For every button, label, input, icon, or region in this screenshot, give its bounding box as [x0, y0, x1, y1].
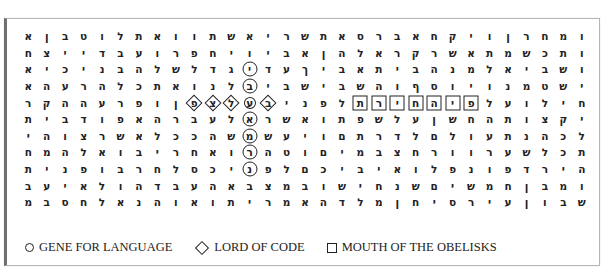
- grid-letter: מ: [480, 177, 498, 194]
- grid-letter: ר: [462, 194, 480, 211]
- grid-letter: א: [204, 144, 222, 161]
- grid-letter: כ: [536, 45, 554, 62]
- grid-letter: צ: [388, 144, 406, 161]
- grid-letter: ב: [111, 45, 129, 62]
- grid-letter: ב: [56, 28, 74, 45]
- grid-letter: י: [573, 111, 591, 128]
- grid-letter: ש: [462, 177, 480, 194]
- grid-letter: ל: [167, 161, 185, 178]
- grid-letter: ק: [554, 111, 572, 128]
- grid-letter: ש: [167, 61, 185, 78]
- gene-for-language-letter: ע: [240, 94, 258, 111]
- grid-letter: ר: [388, 45, 406, 62]
- grid-letter: ת: [554, 45, 572, 62]
- grid-letter: ה: [93, 78, 111, 95]
- grid-letter: נ: [517, 128, 535, 145]
- grid-letter: מ: [19, 194, 37, 211]
- grid-letter: ה: [37, 128, 55, 145]
- grid-letter: כ: [167, 128, 185, 145]
- grid-letter: א: [130, 128, 148, 145]
- grid-letter: ו: [573, 61, 591, 78]
- grid-letter: י: [277, 94, 295, 111]
- grid-letter: ל: [573, 128, 591, 145]
- grid-letter: מ: [37, 144, 55, 161]
- grid-letter: ב: [277, 78, 295, 95]
- grid-letter: ח: [462, 111, 480, 128]
- grid-letter: פ: [74, 161, 92, 178]
- grid-letter: ת: [130, 28, 148, 45]
- grid-letter: ו: [314, 177, 332, 194]
- grid-letter: ו: [222, 144, 240, 161]
- grid-letter: ר: [370, 28, 388, 45]
- grid-letter: ו: [93, 111, 111, 128]
- grid-letter: א: [93, 144, 111, 161]
- grid-letter: ש: [259, 128, 277, 145]
- grid-letter: ש: [333, 177, 351, 194]
- grid-letter: ת: [333, 111, 351, 128]
- grid-letter: ש: [296, 78, 314, 95]
- grid-letter: ש: [277, 111, 295, 128]
- grid-letter: ה: [370, 78, 388, 95]
- grid-letter: ד: [517, 161, 535, 178]
- grid-letter: ת: [19, 111, 37, 128]
- grid-letter: ל: [111, 78, 129, 95]
- grid-letter: א: [370, 45, 388, 62]
- grid-letter: מ: [554, 28, 572, 45]
- grid-letter: ו: [148, 94, 166, 111]
- grid-letter: ד: [74, 111, 92, 128]
- grid-letter: כ: [314, 161, 332, 178]
- grid-letter: ע: [93, 94, 111, 111]
- grid-letter: י: [425, 194, 443, 211]
- grid-letter: ה: [74, 94, 92, 111]
- grid-letter: נ: [204, 78, 222, 95]
- grid-letter: י: [56, 45, 74, 62]
- grid-letter: ם: [425, 128, 443, 145]
- grid-letter: ו: [111, 144, 129, 161]
- grid-letter: ח: [19, 45, 37, 62]
- grid-letter: ל: [222, 111, 240, 128]
- gene-for-language-letter: מ: [240, 128, 258, 145]
- grid-letter: ו: [480, 28, 498, 45]
- grid-letter: ר: [259, 111, 277, 128]
- grid-letter: א: [19, 78, 37, 95]
- grid-letter: א: [296, 111, 314, 128]
- grid-letter: פ: [111, 111, 129, 128]
- grid-letter: ב: [554, 194, 572, 211]
- lord-of-code-letter: פ: [185, 94, 203, 111]
- grid-letter: י: [259, 28, 277, 45]
- grid-letter: ה: [148, 111, 166, 128]
- grid-letter: ע: [204, 111, 222, 128]
- grid-letter: ש: [517, 45, 535, 62]
- grid-letter: מ: [517, 78, 535, 95]
- circle-icon: [25, 243, 34, 252]
- grid-letter: ב: [536, 61, 554, 78]
- grid-letter: ה: [259, 144, 277, 161]
- grid-letter: נ: [499, 78, 517, 95]
- grid-letter: ח: [406, 194, 424, 211]
- grid-letter: ה: [480, 111, 498, 128]
- grid-letter: ח: [499, 177, 517, 194]
- grid-letter: ל: [480, 61, 498, 78]
- gene-for-language-letter: ב: [240, 78, 258, 95]
- grid-letter: ע: [499, 144, 517, 161]
- grid-letter: ש: [351, 78, 369, 95]
- gene-for-language-letter: י: [240, 61, 258, 78]
- grid-letter: ו: [462, 128, 480, 145]
- grid-letter: י: [56, 177, 74, 194]
- grid-letter: י: [222, 45, 240, 62]
- grid-letter: ל: [148, 61, 166, 78]
- grid-letter: ר: [425, 45, 443, 62]
- grid-letter: מ: [499, 45, 517, 62]
- grid-letter: י: [370, 161, 388, 178]
- grid-letter: י: [37, 161, 55, 178]
- grid-letter: ה: [37, 78, 55, 95]
- grid-letter: כ: [554, 144, 572, 161]
- grid-letter: ר: [19, 94, 37, 111]
- grid-letter: ו: [517, 111, 535, 128]
- mouth-of-the-obelisks-letter: ה: [425, 94, 443, 111]
- diamond-icon: [195, 240, 209, 254]
- grid-letter: ע: [406, 111, 424, 128]
- grid-letter: א: [222, 177, 240, 194]
- grid-letter: י: [333, 144, 351, 161]
- grid-letter: ב: [111, 161, 129, 178]
